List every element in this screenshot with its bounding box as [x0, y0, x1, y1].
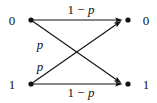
input-label-1: 1 [5, 78, 19, 91]
output-label-1: 1 [139, 78, 153, 91]
node-input-0 [28, 17, 33, 22]
input-label-0: 0 [5, 14, 19, 27]
binary-symmetric-channel-diagram: 0 1 0 1 1 − p 1 − p p p [0, 0, 157, 103]
edge-label-upper-cross: p [34, 38, 46, 51]
edge-label-bottom: 1 − p [61, 86, 101, 99]
node-output-0 [125, 17, 130, 22]
node-output-1 [125, 81, 130, 86]
edge-label-top-prefix: 1 − [68, 2, 88, 17]
edge-label-lower-cross: p [34, 60, 46, 73]
edge-label-bottom-variable: p [88, 85, 95, 100]
node-input-1 [28, 81, 33, 86]
edge-label-top-variable: p [88, 2, 95, 17]
output-label-0: 0 [139, 14, 153, 27]
edge-label-top: 1 − p [61, 3, 101, 16]
edge-label-bottom-prefix: 1 − [68, 85, 88, 100]
